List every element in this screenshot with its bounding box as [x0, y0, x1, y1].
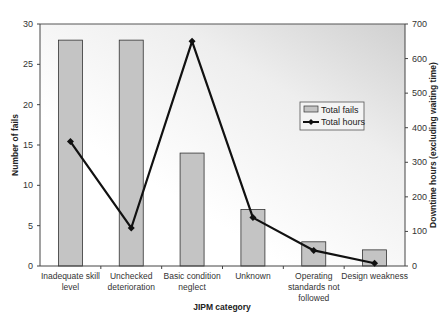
pareto-chart: 0510152025300100200300400500600700 Inade…: [0, 0, 448, 323]
y-tick-label: 25: [23, 59, 33, 69]
category-label: level: [62, 282, 80, 292]
y2-tick-label: 300: [412, 157, 427, 167]
y-tick-label: 15: [23, 140, 33, 150]
y2-tick-label: 400: [412, 123, 427, 133]
y-tick-label: 5: [28, 221, 33, 231]
y2-tick-label: 100: [412, 226, 427, 236]
y-axis-title: Number of fails: [10, 114, 20, 176]
y-tick-label: 20: [23, 100, 33, 110]
y2-tick-label: 700: [412, 19, 427, 29]
y2-axis-title: Downtime hours (excluding waiting time): [428, 62, 438, 228]
y-tick-label: 10: [23, 180, 33, 190]
bar: [180, 153, 204, 266]
y-tick-label: 30: [23, 19, 33, 29]
legend: Total fails Total hours: [300, 102, 366, 130]
category-label: Basic condition: [163, 271, 220, 281]
y2-tick-label: 500: [412, 88, 427, 98]
category-label: Unchecked: [110, 271, 153, 281]
category-label: followed: [298, 293, 329, 303]
category-label: standards not: [288, 282, 340, 292]
legend-label-hours: Total hours: [321, 117, 366, 127]
category-label: deterioration: [108, 282, 156, 292]
y-tick-label: 0: [28, 261, 33, 271]
category-label: Inadequate skill: [41, 271, 100, 281]
bar: [119, 40, 143, 266]
y2-tick-label: 600: [412, 54, 427, 64]
category-label: Design weakness: [341, 271, 408, 281]
category-label: Operating: [295, 271, 333, 281]
category-labels: Inadequate skilllevelUncheckeddeteriorat…: [41, 271, 408, 303]
category-label: neglect: [178, 282, 206, 292]
plot-area: [40, 24, 405, 266]
x-axis-title: JIPM category: [193, 302, 251, 312]
y2-tick-label: 200: [412, 192, 427, 202]
legend-label-fails: Total fails: [321, 105, 359, 115]
legend-bar-swatch-icon: [304, 106, 318, 112]
y2-tick-label: 0: [412, 261, 417, 271]
category-label: Unknown: [235, 271, 271, 281]
